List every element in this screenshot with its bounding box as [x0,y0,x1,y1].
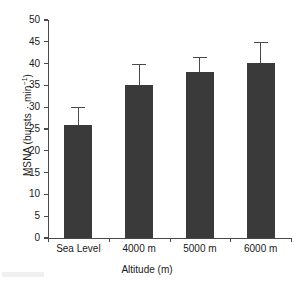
error-bar-stem [260,42,261,63]
y-axis-tick-label: 0 [34,233,40,243]
bar [64,125,92,238]
x-axis-category-label: 5000 m [183,244,216,254]
y-axis-tick: 50 [44,19,48,20]
y-axis-tick-label: 5 [34,211,40,221]
y-axis-tick-label: 35 [29,80,40,90]
x-axis-tick [109,238,110,242]
y-axis-tick-label: 20 [29,146,40,156]
error-bar-stem [139,64,140,86]
x-axis-category-label: 6000 m [244,244,277,254]
y-axis-tick: 15 [44,172,48,173]
error-bar-cap [132,64,146,65]
y-axis-tick: 10 [44,194,48,195]
x-axis-title: Altitude (m) [0,265,294,275]
y-axis-tick: 30 [44,107,48,108]
y-axis-tick: 35 [44,85,48,86]
error-bar-cap [71,107,85,108]
y-axis-tick: 5 [44,216,48,217]
x-axis-category-label: Sea Level [56,244,100,254]
y-axis-tick-label: 15 [29,168,40,178]
y-axis-tick-label: 45 [29,37,40,47]
x-axis-tick [48,238,49,242]
error-bar-stem [199,57,200,72]
y-axis-tick-label: 25 [29,124,40,134]
x-axis-tick [291,238,292,242]
bar [247,63,275,238]
error-bar-cap [193,57,207,58]
y-axis-tick-label: 10 [29,189,40,199]
bar [125,85,153,238]
x-axis-category-label: 4000 m [122,244,155,254]
y-axis-title-exponent: −1 [21,77,28,85]
y-axis-tick: 40 [44,63,48,64]
y-axis-tick-label: 40 [29,59,40,69]
y-axis-title-suffix: ) [22,74,33,77]
bar [186,72,214,238]
y-axis-tick: 45 [44,41,48,42]
x-axis-tick [170,238,171,242]
error-bar-cap [254,42,268,43]
y-axis-line [48,20,49,238]
y-axis-tick: 20 [44,150,48,151]
scan-artifact [2,272,44,277]
y-axis-tick: 25 [44,128,48,129]
plot-area: 50454035302520151050 Sea Level4000 m5000… [48,20,291,238]
error-bar-stem [78,107,79,124]
bar-chart-figure: MSNA (bursts · min−1) 504540353025201510… [0,0,294,283]
x-axis-tick [230,238,231,242]
y-axis-tick-label: 30 [29,102,40,112]
y-axis-tick-label: 50 [29,15,40,25]
